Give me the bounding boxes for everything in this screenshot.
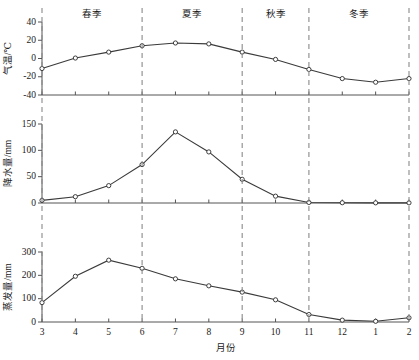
x-tick-label: 5 [106,327,111,337]
data-point [340,318,344,322]
data-point [307,67,311,71]
data-point [340,76,344,80]
data-point [73,56,77,60]
x-tick-label: 7 [173,327,178,337]
data-point [273,298,277,302]
x-tick-label: 6 [140,327,145,337]
chart-canvas: -40-2002040气温/℃ 050100150降水量/mm 01002003… [0,0,419,360]
y-axis-label-temperature: 气温/℃ [2,42,13,76]
data-point [107,184,111,188]
data-point [273,57,277,61]
y-axis-label-evaporation: 蒸发量/mm [2,263,13,311]
x-tick-label: 1 [373,327,378,337]
y-tick-label: 100 [22,145,37,155]
data-point [273,194,277,198]
data-point [107,50,111,54]
y-tick-label: 20 [27,35,37,45]
x-tick-label: 9 [240,327,245,337]
x-axis-title: 月份 [216,342,236,353]
season-label-3: 秋季 [266,8,286,19]
x-tick-label: 11 [304,327,313,337]
y-tick-label: 0 [31,317,36,327]
y-tick-label: 200 [22,270,37,280]
data-point [173,41,177,45]
panel-evaporation: 0100200300蒸发量/mm [2,247,411,327]
x-tick-label: 2 [407,327,412,337]
data-point [73,274,77,278]
x-tick-label: 12 [338,327,348,337]
x-tick-label: 3 [40,327,45,337]
data-point [374,201,378,205]
data-point [374,319,378,323]
data-point [374,80,378,84]
data-point [207,42,211,46]
data-point [73,195,77,199]
data-point [207,284,211,288]
data-point [107,258,111,262]
panel-precipitation: 050100150降水量/mm [2,119,411,208]
data-point [340,201,344,205]
x-axis-group: 345678910111212月份 [40,327,412,353]
x-tick-label: 10 [271,327,281,337]
climate-chart-figure: -40-2002040气温/℃ 050100150降水量/mm 01002003… [0,0,419,360]
y-axis-label-precipitation: 降水量/mm [2,139,13,187]
y-tick-label: 0 [31,198,36,208]
data-point [40,301,44,305]
series-line-evaporation [42,260,409,321]
season-label-1: 春季 [82,8,102,19]
y-tick-label: 50 [27,171,37,181]
data-point [173,130,177,134]
y-tick-label: 40 [27,17,37,27]
series-line-temperature [42,43,409,82]
y-tick-label: -40 [23,90,36,100]
data-point [173,277,177,281]
data-point [40,66,44,70]
data-point [207,150,211,154]
y-tick-label: 150 [22,119,37,129]
x-tick-label: 8 [206,327,211,337]
series-line-precipitation [42,132,409,203]
panel-temperature: -40-2002040气温/℃ [2,17,411,100]
x-tick-label: 4 [73,327,78,337]
season-label-2: 夏季 [182,8,202,19]
y-tick-label: 300 [22,247,37,257]
y-tick-label: 0 [31,53,36,63]
y-tick-label: -20 [23,71,36,81]
season-label-4: 冬季 [349,8,369,19]
y-tick-label: 100 [22,293,37,303]
